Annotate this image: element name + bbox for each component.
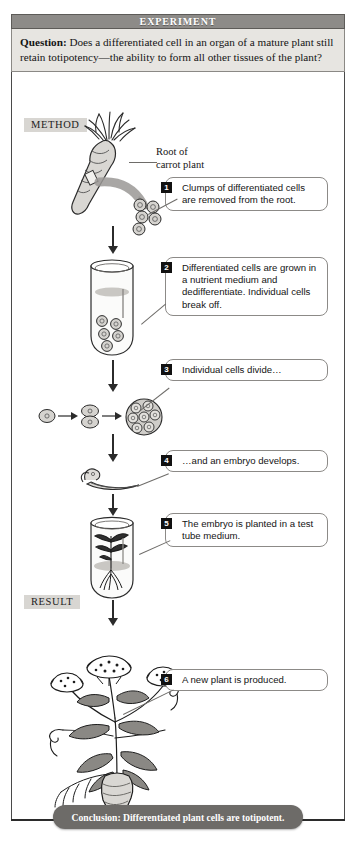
mature-carrot-plant-illustration bbox=[17, 626, 227, 816]
step-5-number-badge: 5 bbox=[161, 518, 172, 529]
flower bbox=[87, 656, 131, 686]
conclusion-text: Conclusion: Differentiated plant cells a… bbox=[72, 812, 285, 823]
experiment-header-bar: EXPERIMENT bbox=[11, 14, 345, 29]
step-4-callout: 4 …and an embryo develops. bbox=[165, 450, 328, 472]
flow-arrow-2-head bbox=[108, 384, 118, 392]
flow-arrow-3-line bbox=[112, 434, 114, 456]
question-body: Does a differentiated cell in an organ o… bbox=[20, 36, 333, 63]
test-tube-with-plantlet-illustration bbox=[83, 514, 141, 600]
step-2-callout: 2 Differentiated cells are grown in a nu… bbox=[165, 257, 328, 316]
step-6-callout: 6 A new plant is produced. bbox=[165, 669, 328, 691]
root-of-carrot-plant-label: Root of carrot plant bbox=[156, 145, 204, 171]
test-tube-with-cells-illustration bbox=[83, 256, 141, 358]
step-3-callout: 3 Individual cells divide… bbox=[165, 359, 328, 381]
step-1-number-badge: 1 bbox=[161, 182, 172, 193]
experiment-figure: EXPERIMENT Question: Does a differentiat… bbox=[11, 14, 345, 836]
step-6-number-badge: 6 bbox=[161, 674, 172, 685]
two-cell-stage bbox=[82, 405, 99, 428]
flow-arrow-1-head bbox=[108, 246, 118, 254]
question-label: Question: bbox=[20, 36, 67, 48]
step-1-callout: 1 Clumps of differentiated cells are rem… bbox=[165, 177, 328, 211]
flow-arrow-2-line bbox=[112, 360, 114, 386]
step-2-text: Differentiated cells are grown in a nutr… bbox=[182, 262, 319, 311]
step-4-text: …and an embryo develops. bbox=[182, 455, 319, 467]
step-4-number-badge: 4 bbox=[161, 455, 172, 466]
frame-left-border bbox=[11, 14, 12, 820]
flow-arrow-5-line bbox=[112, 600, 114, 620]
single-cell bbox=[39, 410, 55, 423]
step-3-text: Individual cells divide… bbox=[182, 364, 319, 376]
flow-arrow-1-line bbox=[112, 226, 114, 248]
root-label-leader-line bbox=[129, 162, 157, 163]
experiment-title: EXPERIMENT bbox=[140, 16, 217, 27]
step-5-text: The embryo is planted in a test tube med… bbox=[182, 518, 319, 542]
conclusion-bar: Conclusion: Differentiated plant cells a… bbox=[53, 805, 303, 829]
flow-arrow-3-head bbox=[108, 454, 118, 462]
step-6-text: A new plant is produced. bbox=[182, 674, 319, 686]
flow-arrow-5-head bbox=[108, 618, 118, 626]
step-2-number-badge: 2 bbox=[161, 262, 172, 273]
step-5-leader-line bbox=[139, 540, 170, 555]
step-5-callout: 5 The embryo is planted in a test tube m… bbox=[165, 513, 328, 547]
result-section-label: RESULT bbox=[24, 595, 80, 609]
flower bbox=[51, 673, 83, 692]
step-1-text: Clumps of differentiated cells are remov… bbox=[182, 182, 319, 206]
frame-right-border bbox=[344, 14, 345, 820]
cell-cluster bbox=[126, 399, 162, 435]
step-3-number-badge: 3 bbox=[161, 364, 172, 375]
question-text: Question: Does a differentiated cell in … bbox=[20, 35, 336, 64]
question-panel: Question: Does a differentiated cell in … bbox=[11, 29, 345, 72]
step-2-leader-line bbox=[141, 303, 166, 324]
